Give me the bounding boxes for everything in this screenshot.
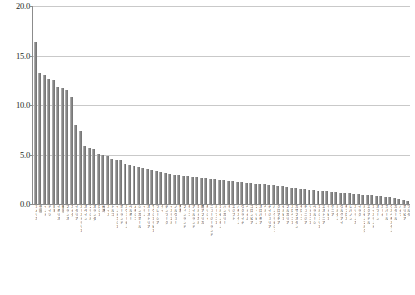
bar [366,195,369,204]
bar [168,174,171,204]
bar [272,185,275,204]
bar [70,97,73,204]
bar-series [33,6,410,204]
bar [56,87,59,204]
bar [285,187,288,204]
bar [308,190,311,204]
bar [361,195,364,204]
bar [92,149,95,204]
bar [182,176,185,204]
bar [61,88,64,204]
bar [294,188,297,204]
bar [348,193,351,204]
bar [397,199,400,204]
bar [150,170,153,204]
y-axis-tick-mark [29,6,33,7]
bar [299,189,302,204]
bar [146,169,149,204]
bar [38,73,41,204]
bar [379,196,382,204]
bar [115,160,118,204]
bar [110,159,113,204]
bar [245,183,248,204]
bar [106,156,109,204]
bar [97,154,100,204]
bar [65,90,68,204]
bar [43,75,46,204]
bar [334,192,337,204]
plot-area [33,6,410,204]
bar [303,189,306,204]
bar [312,190,315,204]
bar [137,167,140,204]
bar [88,148,91,204]
bar [339,193,342,204]
bar [119,160,122,204]
bar [159,172,162,204]
bar [79,131,82,204]
bar [249,183,252,204]
bar [263,184,266,204]
bar [236,182,239,204]
bar [34,42,37,204]
bar [164,173,167,204]
bar [47,79,50,204]
bar [213,179,216,204]
y-axis-tick-mark [29,105,33,106]
bar [402,200,405,204]
bar [195,177,198,204]
bar [83,146,86,204]
bar [388,197,391,204]
bar [321,191,324,204]
bar [204,178,207,204]
bar [155,171,158,204]
bar [133,166,136,204]
y-axis-tick-mark [29,155,33,156]
bar [209,179,212,204]
y-axis-tick-label: 20.0 [16,1,30,11]
bar [52,80,55,204]
bar [343,193,346,204]
bar-chart: 0.05.010.015.020.0 アメリカ中国インドドイツ日本イギリス韓国フ… [0,0,415,295]
bar [124,164,127,204]
bar [352,194,355,204]
bar [317,191,320,204]
bar [191,177,194,204]
bar [325,191,328,204]
x-axis-category-labels: アメリカ中国インドドイツ日本イギリス韓国フランスカナダイタリアオーストラリアスペ… [33,205,410,295]
bar [240,182,243,204]
bar [141,168,144,204]
y-axis-tick-labels: 0.05.010.015.020.0 [0,0,30,210]
bar [393,198,396,204]
bar [222,180,225,204]
bar [258,184,261,204]
bar [254,184,257,204]
bar [375,196,378,204]
bar [177,175,180,204]
bar [227,181,230,204]
bar [74,125,77,204]
y-axis-tick-mark [29,56,33,57]
y-axis-tick-label: 10.0 [16,100,30,110]
bar [357,194,360,204]
bar [370,195,373,204]
y-axis-tick-label: 15.0 [16,51,30,61]
bar [101,155,104,205]
bar [281,186,284,204]
bar [330,192,333,204]
bar [186,176,189,204]
bar [267,185,270,204]
bar [200,178,203,204]
bar [290,188,293,204]
bar [218,180,221,204]
bar [384,197,387,204]
bar [128,165,131,204]
bar [231,181,234,204]
bar [276,186,279,204]
y-axis-tick-mark [29,204,33,205]
bar [406,201,409,204]
x-axis-category-label: マルタ [406,205,410,217]
bar [173,175,176,204]
